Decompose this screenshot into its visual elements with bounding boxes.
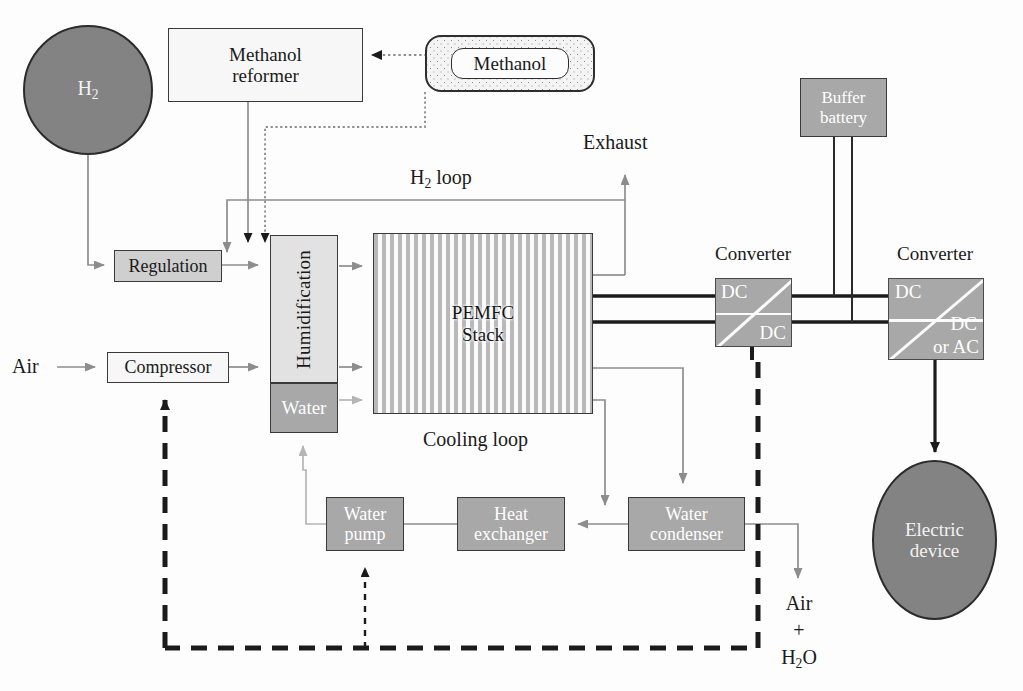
compressor-box: Compressor: [107, 352, 229, 383]
wire-pump-to-water: [303, 446, 326, 524]
methanol-tank-inner: Methanol: [451, 48, 569, 80]
battery-leads: [834, 137, 852, 322]
pemfc-stack-line2: Stack: [452, 324, 514, 345]
buffer-battery-line1: Buffer: [820, 88, 867, 107]
water-label: Water: [282, 397, 327, 418]
converter-dcdc-title: Converter: [702, 243, 804, 265]
water-condenser-line1: Water: [650, 504, 723, 524]
methanol-reformer-line2: reformer: [229, 65, 302, 86]
buffer-battery-box: Buffer battery: [800, 78, 887, 137]
air-water-output-label: Air + H2O: [768, 590, 830, 673]
buffer-battery-line2: battery: [820, 108, 867, 127]
converter-dcdc-output-label: DC: [760, 322, 786, 344]
pemfc-stack-label-group: PEMFC Stack: [444, 302, 522, 345]
water-condenser-line2: condenser: [650, 524, 723, 544]
wire-condenser-to-air-h2o: [745, 524, 798, 578]
wire-stack-to-condenser: [593, 368, 683, 483]
wire-cooling-down: [593, 400, 605, 505]
air-out-line1: Air: [768, 590, 830, 617]
converter-dcac-box: DC DC or AC: [888, 278, 984, 360]
heat-exchanger-line2: exchanger: [474, 524, 548, 544]
air-input-label: Air: [12, 355, 39, 378]
converter-dcac-input-label: DC: [895, 281, 921, 303]
methanol-tank: Methanol: [425, 35, 595, 92]
electric-device-line1: Electric: [905, 519, 964, 540]
h2-source-label: H2: [77, 77, 98, 102]
methanol-reformer-box: Methanol reformer: [168, 28, 363, 102]
air-out-line3: H2O: [768, 644, 830, 673]
exhaust-label: Exhaust: [583, 131, 647, 154]
converter-dcac-output-label-2: or AC: [933, 336, 979, 358]
pemfc-stack-box: PEMFC Stack: [373, 233, 593, 414]
converter-dcdc-box: DC DC: [715, 278, 792, 347]
diagram-canvas: H2 Methanol reformer Methanol Regulation…: [0, 0, 1023, 691]
regulation-label: Regulation: [129, 256, 208, 276]
pemfc-stack-line1: PEMFC: [452, 302, 514, 323]
methanol-tank-label: Methanol: [474, 53, 547, 74]
h2-loop-label: H2 loop: [410, 166, 472, 192]
electric-device-ellipse: Electric device: [872, 460, 997, 620]
water-pump-box: Water pump: [326, 497, 404, 551]
converter-dcdc-input-label: DC: [721, 281, 747, 303]
water-condenser-box: Water condenser: [628, 497, 745, 551]
converter-dcac-title: Converter: [884, 243, 986, 265]
wire-h2-to-regulation: [88, 155, 104, 265]
water-box: Water: [270, 383, 338, 433]
water-pump-line2: pump: [344, 524, 387, 544]
water-pump-line1: Water: [344, 504, 387, 524]
heat-exchanger-line1: Heat: [474, 504, 548, 524]
compressor-label: Compressor: [125, 357, 212, 377]
electric-device-line2: device: [905, 540, 964, 561]
converter-dcac-output-label-1: DC: [951, 313, 977, 335]
heat-exchanger-box: Heat exchanger: [457, 497, 565, 551]
humidification-box: Humidification: [270, 235, 338, 383]
h2-source-ellipse: H2: [23, 25, 153, 155]
cooling-loop-label: Cooling loop: [423, 428, 528, 451]
humidification-label: Humidification: [293, 250, 314, 369]
regulation-box: Regulation: [114, 250, 222, 282]
methanol-reformer-line1: Methanol: [229, 44, 302, 65]
air-out-line2: +: [768, 617, 830, 644]
wire-tank-to-humidification: [265, 92, 425, 242]
